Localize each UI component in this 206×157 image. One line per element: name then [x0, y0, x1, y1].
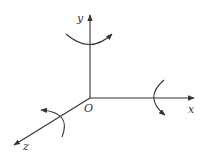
- y-axis-label: y: [77, 13, 83, 24]
- origin-label: O: [84, 103, 93, 114]
- y-rotation-arrow-icon: [66, 34, 112, 45]
- z-axis-label: z: [23, 141, 29, 152]
- z-rotation-arrow-icon: [41, 110, 64, 137]
- coordinate-diagram: [0, 0, 206, 157]
- z-axis: [14, 98, 90, 145]
- x-axis-label: x: [188, 104, 194, 115]
